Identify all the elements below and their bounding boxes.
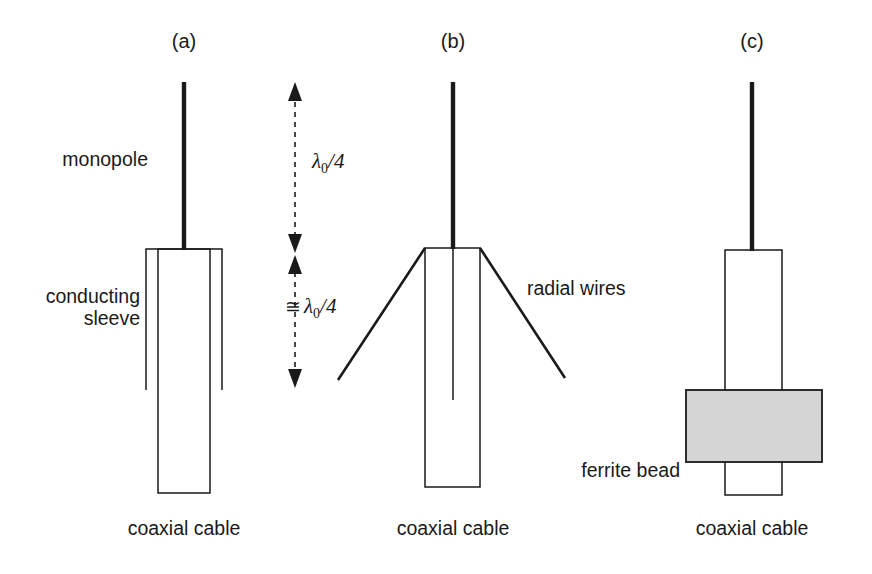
dimension-lower-label: ≅λ0/4 bbox=[285, 294, 337, 321]
radial-wires-label: radial wires bbox=[527, 277, 626, 299]
figure-canvas: (a) monopole conducting sleeve coaxial c… bbox=[0, 0, 872, 574]
arrow-up-icon-lower bbox=[288, 255, 302, 274]
coaxial-cable-label-b: coaxial cable bbox=[397, 517, 510, 539]
lambda-divisor-upper: /4 bbox=[327, 149, 345, 173]
lambda-subscript-lower: 0 bbox=[313, 306, 320, 321]
arrow-down-icon-lower bbox=[288, 369, 302, 388]
antenna-balun-figure: (a) monopole conducting sleeve coaxial c… bbox=[0, 0, 872, 574]
panel-a: (a) monopole conducting sleeve coaxial c… bbox=[46, 30, 241, 539]
approx-equal-symbol: ≅ bbox=[285, 296, 301, 317]
coaxial-cable-label-a: coaxial cable bbox=[128, 517, 241, 539]
dimension-annotations: λ0/4 ≅λ0/4 bbox=[285, 82, 345, 388]
radial-wire-right bbox=[480, 248, 565, 378]
dimension-lower: ≅λ0/4 bbox=[285, 255, 337, 388]
lambda-symbol-upper: λ bbox=[311, 149, 321, 173]
radial-wire-left bbox=[338, 248, 425, 380]
dimension-upper-label: λ0/4 bbox=[311, 149, 345, 176]
monopole-label: monopole bbox=[62, 148, 148, 170]
arrow-down-icon-upper bbox=[288, 234, 302, 253]
arrow-up-icon-upper bbox=[288, 82, 302, 101]
conducting-sleeve-label-line2: sleeve bbox=[84, 307, 140, 329]
dimension-upper: λ0/4 bbox=[288, 82, 345, 253]
conducting-sleeve-label-line1: conducting bbox=[46, 285, 140, 307]
panel-b-caption: (b) bbox=[441, 30, 465, 52]
panel-c-caption: (c) bbox=[740, 30, 763, 52]
coaxial-cable-box-a bbox=[158, 249, 210, 493]
lambda-subscript-upper: 0 bbox=[321, 161, 328, 176]
lambda-symbol-lower: λ bbox=[303, 294, 313, 318]
ferrite-bead-label: ferrite bead bbox=[581, 459, 680, 481]
ferrite-bead-block bbox=[686, 390, 822, 462]
coaxial-cable-label-c: coaxial cable bbox=[696, 517, 809, 539]
panel-a-caption: (a) bbox=[172, 30, 196, 52]
lambda-divisor-lower: /4 bbox=[319, 294, 337, 318]
